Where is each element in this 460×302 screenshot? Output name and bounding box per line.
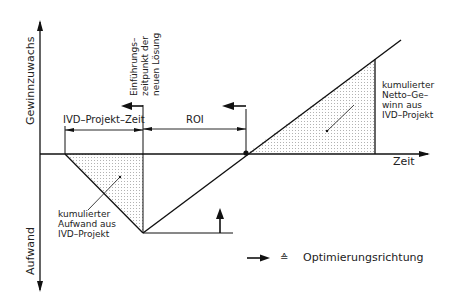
introduction-label-2: zeitpunkt der [140,36,151,96]
break-even-point [243,150,248,155]
up-arrow-effort [216,208,224,219]
y-axis-down-arrow [37,281,43,292]
x-axis-label: Zeit [393,156,415,167]
project-time-label: IVD–Projekt–Zeit [63,114,145,125]
legend-arrow-icon [260,255,270,262]
introduction-label-1: Einführungs– [129,38,140,96]
legend-equiv-symbol: ≙ [280,252,288,263]
left-arrow-roi [222,102,234,110]
y-axis-up-label: Gewinnzuwachs [25,36,36,125]
y-axis-down-label: Aufwand [25,227,36,275]
roi-label: ROI [186,114,204,125]
legend-label: Optimierungsrichtung [303,252,424,263]
x-axis-arrow [419,151,430,157]
introduction-label-3: neuen Lösung [151,33,162,96]
net-gain-label: kumulierter Netto–Ge– winn aus IVD–Proje… [382,80,434,120]
left-arrow-intro [121,102,132,110]
effort-label: kumulierter Aufwand aus IVD–Projekt [58,209,116,239]
y-axis-up-arrow [37,20,43,31]
